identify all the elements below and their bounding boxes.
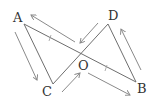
label-c: C: [42, 84, 52, 99]
arrow-o-to-b: [88, 73, 130, 95]
geometry-diagram: A D C B O: [0, 0, 155, 104]
arrow-d-to-o: [80, 23, 98, 43]
label-b: B: [137, 81, 147, 96]
segment-ac: [24, 24, 53, 84]
arrow-a-to-c: [15, 32, 37, 80]
label-d: D: [108, 8, 118, 23]
segment-db: [108, 24, 136, 82]
arrow-o-to-a: [31, 15, 75, 42]
label-a: A: [12, 10, 23, 25]
arrow-c-to-o: [62, 73, 80, 92]
label-o: O: [78, 58, 89, 73]
arrow-b-to-d: [121, 29, 141, 70]
